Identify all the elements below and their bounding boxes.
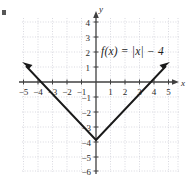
x-tick-label-5: 5 <box>166 87 171 97</box>
y-tick-label-1: 1 <box>86 63 91 73</box>
x-tick-label-2: 2 <box>123 87 128 97</box>
y-tick-label-neg2: −2 <box>81 108 91 118</box>
y-tick-label-3: 3 <box>86 33 91 43</box>
x-axis-name-label: x <box>180 78 185 88</box>
y-tick-label-neg1: −1 <box>81 93 91 103</box>
x-tick-label-neg4: −4 <box>33 87 43 97</box>
y-axis <box>93 11 99 174</box>
y-tick-label-neg6: −6 <box>81 167 91 177</box>
y-tick-label-4: 4 <box>86 18 91 28</box>
coordinate-plane: −5 −4 −3 −2 −1 1 2 3 4 5 4 3 2 1 −1 −2 −… <box>0 0 189 178</box>
y-tick-label-neg4: −4 <box>81 138 91 148</box>
function-equation-label: f(x) = |x| − 4 <box>101 45 164 57</box>
x-tick-label-4: 4 <box>152 87 157 97</box>
x-tick-label-1: 1 <box>108 87 113 97</box>
y-tick-label-neg5: −5 <box>81 153 91 163</box>
x-tick-label-neg5: −5 <box>19 87 29 97</box>
y-axis-name-label: y <box>98 4 103 14</box>
y-tick-label-2: 2 <box>86 48 91 58</box>
graph-figure: −5 −4 −3 −2 −1 1 2 3 4 5 4 3 2 1 −1 −2 −… <box>0 0 189 178</box>
x-tick-label-neg2: −2 <box>62 87 72 97</box>
